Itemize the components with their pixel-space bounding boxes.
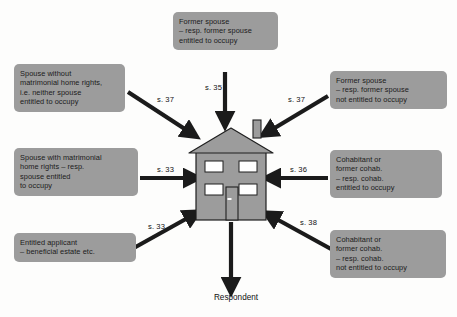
node-line: – resp. former spouse: [179, 26, 272, 35]
node-line: Former spouse: [179, 17, 272, 26]
node-line: spouse entitled: [20, 172, 132, 181]
node-line: Entitled applicant: [20, 238, 130, 247]
node-line: former cohab.: [336, 164, 436, 173]
edge-label-s35: s. 35: [205, 83, 222, 92]
occupation-orders-diagram: Former spouse – resp. former spouse enti…: [0, 0, 457, 317]
node-line: entitled to occupy: [179, 36, 272, 45]
node-cohabitant-entitled[interactable]: Cohabitant or former cohab. – resp. coha…: [330, 150, 442, 198]
node-former-spouse-entitled[interactable]: Former spouse – resp. former spouse enti…: [173, 12, 278, 50]
node-line: former cohab.: [336, 244, 440, 253]
node-spouse-without-home-rights[interactable]: Spouse without matrimonial home rights, …: [14, 64, 125, 112]
house-window-bottom-left: [205, 184, 223, 195]
respondent-label: Respondent: [186, 293, 286, 302]
arrow-s33-bottom: [132, 215, 193, 249]
node-former-spouse-not-entitled[interactable]: Former spouse – resp. former spouse not …: [330, 71, 447, 109]
house-window-bottom-right: [239, 184, 257, 195]
node-line: Cohabitant or: [336, 235, 440, 244]
house-window-top-right: [239, 161, 257, 172]
node-line: not entitled to occupy: [336, 263, 440, 272]
edge-label-s38: s. 38: [300, 218, 317, 227]
node-line: – beneficial estate etc.: [20, 247, 130, 256]
node-line: to occupy: [20, 181, 132, 190]
edge-label-s33-bottom: s. 33: [148, 222, 165, 231]
node-entitled-applicant[interactable]: Entitled applicant – beneficial estate e…: [14, 233, 136, 262]
house-door: [226, 187, 238, 220]
node-line: entitled to occupy: [20, 97, 119, 106]
node-line: Spouse without: [20, 69, 119, 78]
house-window-top-left: [205, 161, 223, 172]
node-line: Former spouse: [336, 76, 441, 85]
house-door-handle: [228, 198, 232, 200]
house-chimney: [253, 120, 261, 138]
edge-label-s36: s. 36: [290, 165, 307, 174]
edge-label-s37-right: s. 37: [288, 95, 305, 104]
node-line: not entitled to occupy: [336, 95, 441, 104]
node-cohabitant-not-entitled[interactable]: Cohabitant or former cohab. – resp. coha…: [330, 230, 446, 278]
edge-label-s33-mid: s. 33: [157, 165, 174, 174]
house-icon: [189, 120, 273, 220]
node-line: – resp. cohab.: [336, 174, 436, 183]
node-line: i.e. neither spouse: [20, 88, 119, 97]
node-line: – resp. former spouse: [336, 85, 441, 94]
node-line: – resp. cohab.: [336, 254, 440, 263]
edge-label-s37-left: s. 37: [157, 95, 174, 104]
node-line: home rights – resp.: [20, 162, 132, 171]
node-line: Cohabitant or: [336, 155, 436, 164]
node-line: Spouse with matrimonial: [20, 153, 132, 162]
node-line: matrimonial home rights,: [20, 78, 119, 87]
node-line: entitled to occupy: [336, 183, 436, 192]
node-spouse-with-home-rights[interactable]: Spouse with matrimonial home rights – re…: [14, 148, 138, 196]
